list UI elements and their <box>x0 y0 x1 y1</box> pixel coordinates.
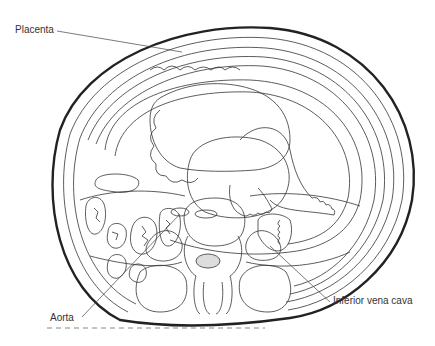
fetal-leg <box>187 137 289 218</box>
back-muscle-left <box>136 265 187 312</box>
ivc-leader <box>270 246 330 302</box>
bowel-loop <box>129 264 146 282</box>
back-muscle-right <box>239 265 290 312</box>
abdominal-wall-outline <box>53 27 414 325</box>
spinal-canal <box>196 254 220 268</box>
ivc-vessel <box>195 210 217 218</box>
bowel-loop <box>85 197 105 234</box>
bowel-loop <box>130 217 156 254</box>
bowel-loop <box>95 174 139 192</box>
bowel-loop <box>107 223 126 248</box>
fetal-foot-lower <box>229 185 272 216</box>
anatomy-figure: Placenta Aorta Inferior vena cava <box>0 0 435 346</box>
psoas-left <box>146 231 182 261</box>
vertebral-body <box>184 198 245 246</box>
label-placenta: Placenta <box>15 24 54 35</box>
fetal-foot <box>240 128 335 215</box>
label-aorta: Aorta <box>50 312 74 323</box>
bowel-loop <box>107 255 126 279</box>
kidney-right <box>258 214 292 251</box>
fetal-limb-coil <box>150 110 198 183</box>
bowel-loop <box>159 208 180 246</box>
spinous-process <box>194 276 232 314</box>
label-inferior-vena-cava: Inferior vena cava <box>333 295 413 306</box>
psoas-right <box>246 231 281 261</box>
fetus-body <box>150 84 290 172</box>
